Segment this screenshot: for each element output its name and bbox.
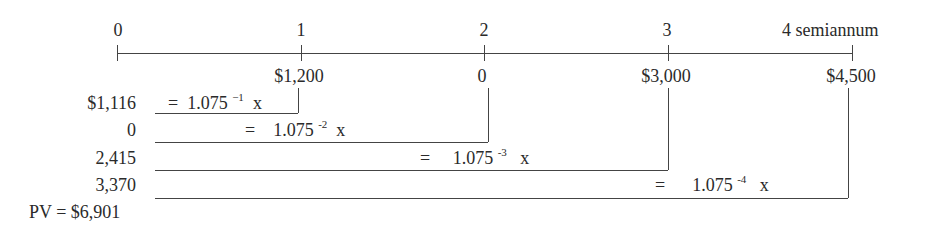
tick-0 [117,45,118,61]
period-label-2: 2 [480,20,489,40]
times-4: x [760,175,769,195]
equals-2: = [245,120,255,140]
exponent-1: −1 [232,91,244,103]
equals-1: = [168,93,178,113]
equals-4: = [655,175,665,195]
times-1: x [253,93,262,113]
tick-2 [484,45,485,61]
tick-4 [852,45,853,61]
base-3: 1.075 [453,148,494,168]
period-label-4: 4 semiannum [782,20,879,40]
pv-3: 2,415 [96,148,137,168]
discount-line-2 [155,142,488,143]
tick-1 [301,45,302,61]
discount-drop-1 [298,88,299,113]
discount-line-4 [155,198,848,199]
tick-3 [668,45,669,61]
formula-1: = 1.075 −1 x [168,93,262,115]
times-2: x [336,120,345,140]
base-2: 1.075 [273,120,314,140]
exponent-4: -4 [737,173,746,185]
times-3: x [520,148,529,168]
equals-3: = [420,148,430,168]
exponent-2: -2 [318,118,327,130]
discount-line-3 [155,170,668,171]
pv-4: 3,370 [96,175,137,195]
formula-4: = 1.075 -4 x [655,175,769,197]
period-label-0: 0 [114,20,123,40]
base-1: 1.075 [187,93,228,113]
pv-2: 0 [127,120,136,140]
discount-drop-4 [848,88,849,198]
formula-3: = 1.075 -3 x [420,148,529,170]
discount-drop-3 [668,88,669,170]
formula-2: = 1.075 -2 x [245,120,345,142]
cash-flow-3: $3,000 [641,66,691,86]
cash-flow-1: $1,200 [274,66,324,86]
discount-drop-2 [488,88,489,142]
exponent-3: -3 [498,146,507,158]
period-label-1: 1 [297,20,306,40]
pv-total: PV = $6,901 [29,202,120,222]
cash-flow-2: 0 [478,66,487,86]
pv-1: $1,116 [87,93,136,113]
cash-flow-4: $4,500 [826,66,876,86]
period-label-3: 3 [663,20,672,40]
base-4: 1.075 [692,175,733,195]
